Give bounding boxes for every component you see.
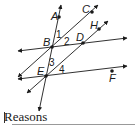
- point-label-B: B: [43, 36, 50, 48]
- point-label-C: C: [82, 3, 90, 15]
- point-E: [44, 74, 48, 78]
- angle-label-3: 3: [49, 57, 55, 68]
- line-EH: [27, 21, 108, 93]
- point-B: [50, 45, 54, 49]
- line-BD: [18, 38, 127, 51]
- point-label-E: E: [37, 65, 45, 77]
- point-label-A: A: [50, 10, 58, 22]
- angle-label-2: 2: [64, 36, 70, 47]
- point-label-D: D: [76, 31, 84, 43]
- point-label-H: H: [90, 19, 98, 31]
- angle-label-4: 4: [59, 64, 65, 75]
- header-underline: [12, 124, 135, 125]
- point-label-F: F: [109, 72, 117, 84]
- angle-label-1: 1: [56, 29, 62, 40]
- reasons-header: Reasons: [4, 109, 47, 125]
- point-C: [90, 10, 94, 14]
- geometry-diagram: ABCDHEF1234: [0, 0, 135, 126]
